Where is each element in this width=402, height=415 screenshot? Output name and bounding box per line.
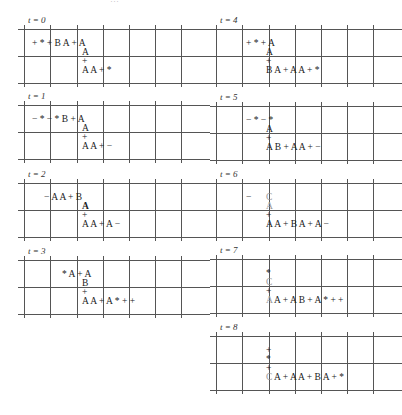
grid-line-vertical	[103, 179, 104, 241]
lattice-panel: t = 8+*+CA + A A + B A + *	[216, 336, 396, 410]
species-symbols: − * − * B + A	[32, 115, 85, 124]
lattice-panel: t = 6−CA+A A + B A + A −	[216, 183, 396, 257]
grid-line-vertical	[103, 25, 104, 87]
grid-line-vertical	[295, 25, 296, 87]
grid-line-vertical	[24, 179, 25, 241]
grid-line-vertical	[50, 179, 51, 241]
time-step-label: t = 2	[28, 169, 46, 179]
grid-line-vertical	[50, 101, 51, 163]
lattice-panel: t = 0+ * + B A + AA+A A + *	[24, 29, 204, 103]
grid-line-vertical	[373, 255, 374, 317]
grid-line-vertical	[77, 101, 78, 163]
species-symbols: A	[266, 296, 273, 305]
lattice-panel: t = 2− A A + BA+A A + A −	[24, 183, 204, 257]
species-symbols: − A A + B	[44, 193, 82, 202]
time-step-label: t = 4	[220, 15, 238, 25]
lattice-panel: t = 3* A + AB+A A + A * + +	[24, 260, 204, 334]
grid-line-vertical	[321, 255, 322, 317]
grid-line-vertical	[181, 256, 182, 318]
grid-line-vertical	[181, 25, 182, 87]
grid-line-vertical	[24, 25, 25, 87]
grid-line-vertical	[321, 102, 322, 164]
grid-line-vertical	[216, 102, 217, 164]
grid-line-vertical	[24, 256, 25, 318]
grid-line-vertical	[373, 25, 374, 87]
grid-line-vertical	[216, 25, 217, 87]
grid-line-vertical	[373, 179, 374, 241]
species-symbols: A + A A + B A + *	[274, 373, 344, 382]
grid-line-vertical	[155, 256, 156, 318]
lattice-panel: t = 4+ * + AA+B A + A A + *	[216, 29, 396, 103]
grid-line-vertical	[242, 102, 243, 164]
species-symbols: A A + B A + A −	[266, 220, 329, 229]
grid-line-vertical	[347, 179, 348, 241]
grid-line-vertical	[373, 332, 374, 394]
grid-line-vertical	[50, 256, 51, 318]
grid-line-vertical	[295, 255, 296, 317]
time-step-label: t = 8	[220, 322, 238, 332]
grid-line-vertical	[155, 25, 156, 87]
species-symbols: A B + A A + −	[266, 143, 321, 152]
grid-line-vertical	[321, 179, 322, 241]
grid-line-vertical	[155, 179, 156, 241]
grid-line-vertical	[77, 179, 78, 241]
grid-line-vertical	[242, 255, 243, 317]
grid-line-vertical	[216, 255, 217, 317]
species-symbols: −	[246, 193, 251, 202]
grid-line-vertical	[216, 332, 217, 394]
grid-line-vertical	[373, 102, 374, 164]
species-symbols: A A + −	[82, 142, 112, 151]
grid-line-vertical	[77, 256, 78, 318]
grid-line-vertical	[295, 102, 296, 164]
species-symbols: A A + A −	[82, 220, 120, 229]
time-step-label: t = 3	[28, 246, 46, 256]
time-step-label: t = 1	[28, 91, 46, 101]
grid-line-vertical	[242, 179, 243, 241]
species-symbols: + * + B A + A	[32, 39, 86, 48]
grid-line-vertical	[347, 332, 348, 394]
time-step-label: t = 6	[220, 169, 238, 179]
grid-line-vertical	[129, 179, 130, 241]
grid-line-vertical	[181, 179, 182, 241]
species-symbols: A + A B + A * + +	[274, 296, 343, 305]
grid-line-vertical	[216, 179, 217, 241]
grid-line-vertical	[103, 101, 104, 163]
grid-line-vertical	[129, 256, 130, 318]
grid-line-vertical	[129, 101, 130, 163]
grid-line-vertical	[50, 25, 51, 87]
grid-line-vertical	[347, 25, 348, 87]
grid-line-vertical	[321, 25, 322, 87]
grid-line-vertical	[321, 332, 322, 394]
grid-line-vertical	[295, 332, 296, 394]
time-step-label: t = 7	[220, 245, 238, 255]
species-symbols: A A + A * + +	[82, 297, 135, 306]
grid-line-vertical	[347, 255, 348, 317]
grid-line-vertical	[181, 101, 182, 163]
grid-line-vertical	[242, 25, 243, 87]
lattice-panel: t = 5− * − *A+A B + A A + −	[216, 106, 396, 180]
time-step-label: t = 0	[28, 15, 46, 25]
grid-line-vertical	[242, 332, 243, 394]
species-symbols: B A + A A + *	[266, 66, 320, 75]
grid-line-vertical	[295, 179, 296, 241]
grid-line-vertical	[24, 101, 25, 163]
lattice-panel: t = 7*C+AA + A B + A * + +	[216, 259, 396, 333]
grid-line-vertical	[103, 256, 104, 318]
time-step-label: t = 5	[220, 92, 238, 102]
grid-line-vertical	[347, 102, 348, 164]
grid-line-vertical	[77, 25, 78, 87]
lattice-panel: t = 1− * − * B + AA+A A + −	[24, 105, 204, 179]
species-symbols: A A + *	[82, 66, 111, 75]
grid-line-vertical	[129, 25, 130, 87]
grid-line-vertical	[155, 101, 156, 163]
cropped-caption-text: …	[110, 0, 119, 4]
species-symbols: C	[266, 373, 272, 382]
